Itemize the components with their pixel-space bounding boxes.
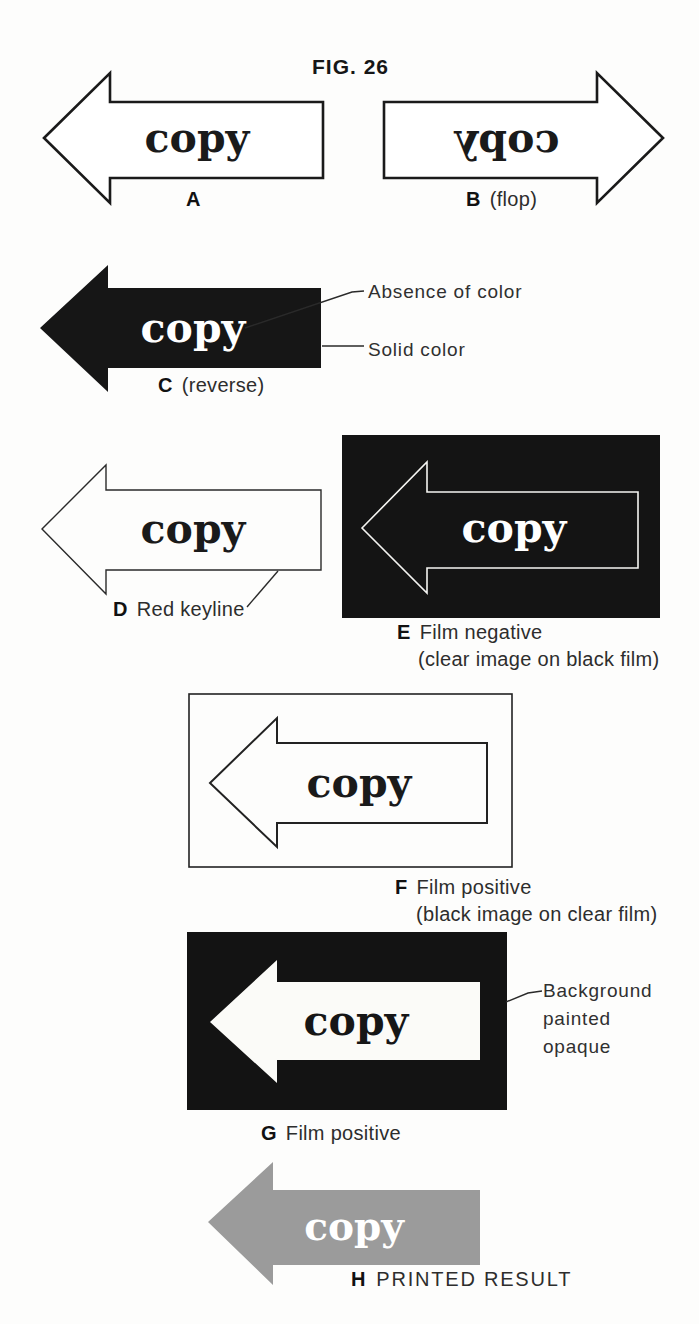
figure-page: FIG. 26 copy A copy B(flop) copy C(rever… xyxy=(0,0,699,1324)
section-subcaption-f: (black image on clear film) xyxy=(416,903,658,926)
copy-text-e: copy xyxy=(462,504,568,552)
section-label-c: C(reverse) xyxy=(158,374,264,397)
panel-g-film-positive: copy xyxy=(187,932,507,1110)
copy-text-f: copy xyxy=(307,759,413,807)
section-caption-f: Film positive xyxy=(417,876,532,898)
section-caption-e: Film negative xyxy=(420,621,543,643)
section-caption-h: PRINTED RESULT xyxy=(376,1268,572,1290)
copy-text-h: copy xyxy=(304,1203,405,1249)
copy-text-c: copy xyxy=(141,304,247,352)
panel-f-film-positive: copy xyxy=(188,693,513,868)
section-label-f: FFilm positive (black image on clear fil… xyxy=(395,876,658,926)
section-caption-b: (flop) xyxy=(490,188,537,210)
section-caption-line-f: FFilm positive xyxy=(395,876,658,899)
section-letter-f: F xyxy=(395,876,408,898)
copy-text-a: copy xyxy=(145,114,251,162)
section-letter-c: C xyxy=(158,374,173,396)
section-label-b: B(flop) xyxy=(466,188,537,211)
copy-text-d: copy xyxy=(141,505,247,553)
section-letter-b: B xyxy=(466,188,481,210)
section-caption-g: Film positive xyxy=(286,1122,401,1144)
section-caption-c: (reverse) xyxy=(182,374,265,396)
section-label-e: EFilm negative (clear image on black fil… xyxy=(397,621,660,671)
section-letter-e: E xyxy=(397,621,411,643)
annotation-absence-of-color: Absence of color xyxy=(368,278,522,306)
section-letter-d: D xyxy=(113,598,128,620)
section-label-a: A xyxy=(186,188,210,211)
panel-e-film-negative: copy xyxy=(342,435,660,618)
arrow-b-flop: copy xyxy=(381,70,665,207)
annotation-background-opaque: Background painted opaque xyxy=(543,977,652,1061)
copy-text-b-mirrored: copy xyxy=(453,114,559,162)
section-caption-line-e: EFilm negative xyxy=(397,621,660,644)
section-caption-d: Red keyline xyxy=(137,598,245,620)
section-label-h: HPRINTED RESULT xyxy=(351,1268,572,1291)
arrow-d-keyline: copy xyxy=(40,462,324,597)
copy-text-g: copy xyxy=(304,997,410,1045)
leader-line-background-opaque xyxy=(506,991,542,1002)
arrow-a-original: copy xyxy=(42,70,326,207)
section-letter-h: H xyxy=(351,1268,367,1290)
section-subcaption-e: (clear image on black film) xyxy=(418,648,660,671)
section-letter-a: A xyxy=(186,188,201,210)
annotation-solid-color: Solid color xyxy=(368,336,466,364)
section-label-g: GFilm positive xyxy=(261,1122,401,1145)
section-letter-g: G xyxy=(261,1122,277,1144)
section-label-d: DRed keyline xyxy=(113,598,245,621)
